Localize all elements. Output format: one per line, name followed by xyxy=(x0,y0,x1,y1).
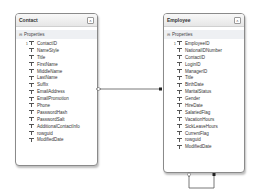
association-employee-self[interactable] xyxy=(188,172,216,188)
arrow-end-icon xyxy=(159,88,162,91)
arrow-end-icon xyxy=(213,173,216,176)
association-lines xyxy=(0,0,256,193)
diamond-end-icon xyxy=(96,88,101,91)
association-contact-employee[interactable] xyxy=(96,88,162,91)
diamond-end-icon xyxy=(188,172,191,177)
